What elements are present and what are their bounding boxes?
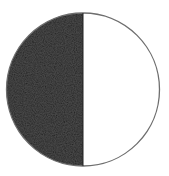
unshaded-right-half <box>83 13 160 166</box>
shaded-left-half <box>7 13 83 166</box>
half-shaded-circle-figure <box>0 0 169 176</box>
circle-diagram <box>0 0 169 176</box>
